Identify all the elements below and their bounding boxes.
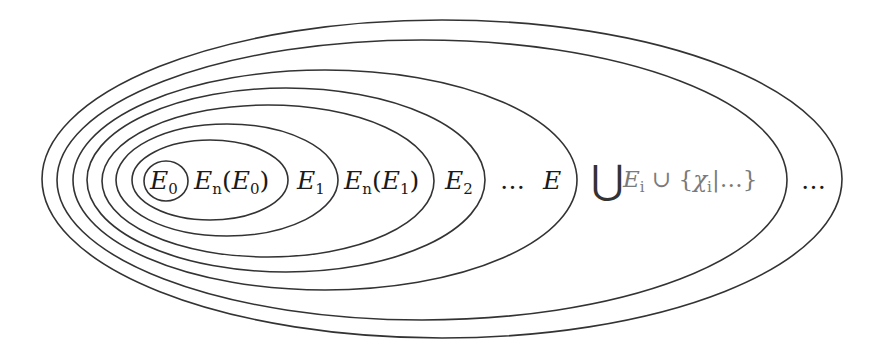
paren-close: )	[409, 166, 419, 195]
cup-symbol: ∪	[652, 166, 671, 192]
label-e-base: E	[543, 166, 561, 195]
bar-symbol: |	[712, 166, 720, 192]
paren-close: )	[259, 166, 269, 195]
paren-open: (	[222, 166, 232, 195]
label-en-e0-sub: n	[212, 180, 222, 198]
union-term-dots: …	[720, 166, 743, 192]
label-e0: E0	[150, 168, 178, 197]
label-e1-sub: 1	[315, 180, 325, 198]
label-en-e0: En(E0)	[194, 168, 269, 197]
label-e2-sub: 2	[463, 180, 473, 198]
label-en-e1-inner: E	[382, 166, 400, 195]
label-e0-sub: 0	[168, 180, 178, 198]
label-en-e0-base: E	[194, 166, 212, 195]
paren-open: (	[372, 166, 382, 195]
brace-close: }	[743, 166, 758, 192]
label-e2: E2	[445, 168, 473, 197]
chi-symbol: χ	[693, 166, 707, 192]
union-term-base: E	[623, 166, 640, 192]
label-e1: E1	[297, 168, 325, 197]
big-union-symbol: ⋃	[591, 160, 624, 200]
label-e1-base: E	[297, 166, 315, 195]
label-e2-base: E	[445, 166, 463, 195]
label-dots-before-e: …	[500, 168, 525, 193]
ellipse-e2	[87, 88, 485, 272]
union-term-sub: i	[640, 178, 645, 196]
label-en-e1-sub: n	[362, 180, 372, 198]
label-outer-dots: …	[801, 168, 826, 193]
label-en-e0-inner: E	[232, 166, 250, 195]
label-union-term: Ei ∪ {χi|…}	[623, 168, 757, 195]
label-e: E	[543, 168, 561, 193]
brace-open: {	[679, 166, 694, 192]
label-en-e1-base: E	[344, 166, 362, 195]
label-e0-base: E	[150, 166, 168, 195]
label-en-e1: En(E1)	[344, 168, 419, 197]
